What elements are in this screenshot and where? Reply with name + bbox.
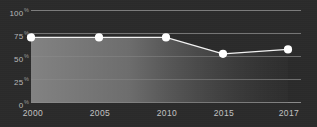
- y-axis-tick-100: 100%: [1, 6, 29, 18]
- x-axis-tick-2017: 2017: [269, 109, 309, 118]
- y-axis-tick-25-value: 25: [14, 78, 23, 87]
- y-axis-tick-75-value: 75: [14, 32, 23, 41]
- x-axis-tick-2000: 2000: [13, 109, 53, 118]
- x-axis-tick-2015: 2015: [204, 109, 244, 118]
- y-axis-tick-50: 50%: [1, 52, 29, 64]
- data-point-2017[interactable]: [284, 45, 292, 53]
- percent-symbol: %: [24, 53, 29, 59]
- y-axis-tick-75: 75%: [1, 29, 29, 41]
- data-point-2010[interactable]: [162, 33, 170, 41]
- y-axis-tick-50-value: 50: [14, 55, 23, 64]
- percent-symbol: %: [24, 99, 29, 105]
- series-area-fill: [31, 37, 288, 103]
- y-axis-tick-100-value: 100: [9, 9, 23, 18]
- x-axis-tick-2010: 2010: [147, 109, 187, 118]
- percent-symbol: %: [24, 30, 29, 36]
- data-point-2005[interactable]: [95, 33, 103, 41]
- data-point-2015[interactable]: [219, 50, 227, 58]
- area-chart: 100% 75% 50% 25% 0% 2000 2005 2010 2015 …: [0, 0, 317, 127]
- y-axis-tick-25: 25%: [1, 75, 29, 87]
- percent-symbol: %: [24, 76, 29, 82]
- x-axis-tick-2005: 2005: [80, 109, 120, 118]
- percent-symbol: %: [24, 7, 29, 13]
